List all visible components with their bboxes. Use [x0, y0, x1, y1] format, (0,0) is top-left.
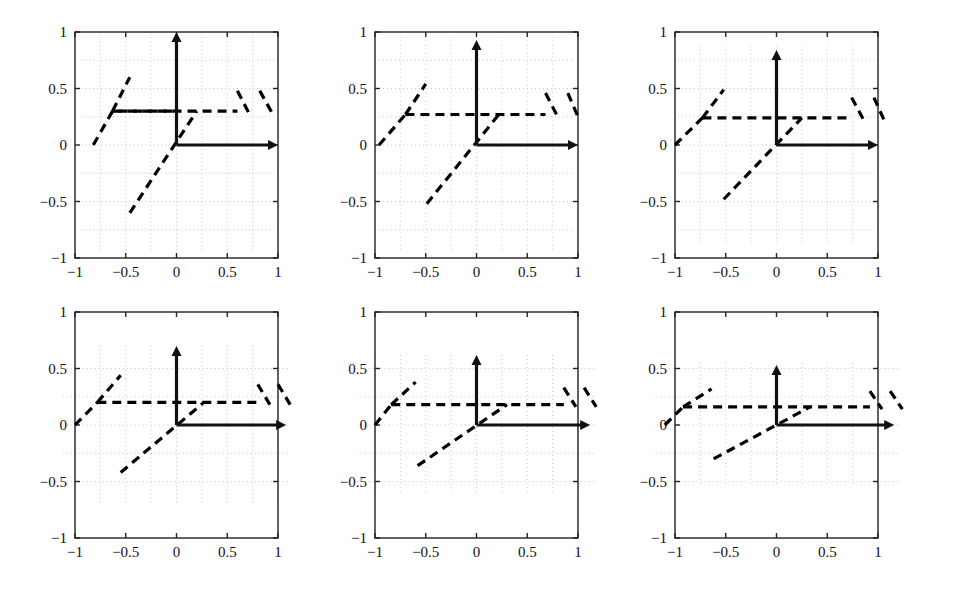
y-tick-label: 1 [660, 304, 668, 320]
curve-ramp-left [665, 407, 683, 425]
vertical-arrow-head-icon [772, 50, 782, 60]
vertical-arrow-head-icon [172, 32, 182, 42]
plot-panel-5: −1−0.500.51−1−0.500.51 [320, 290, 620, 580]
grid-lines [324, 290, 620, 580]
curve-falling-2 [568, 93, 578, 117]
horizontal-arrow-head-icon [580, 420, 590, 430]
curve-falling-1 [870, 391, 882, 409]
y-tick-label: −0.5 [40, 194, 67, 210]
y-tick-label: −1 [51, 250, 67, 266]
x-tick-label: −0.5 [112, 264, 139, 280]
curve-falling-1 [546, 93, 558, 117]
x-tick-label: 1 [874, 264, 882, 280]
y-tick-label: 0.5 [348, 361, 367, 377]
curve-ramp-left [75, 402, 97, 425]
y-tick-label: 0.5 [348, 81, 367, 97]
y-tick-label: 0.5 [48, 81, 67, 97]
y-tick-label: −1 [651, 250, 667, 266]
vertical-arrow-head-icon [472, 355, 482, 365]
x-tick-label: −0.5 [112, 544, 139, 560]
horizontal-arrow-head-icon [276, 420, 286, 430]
y-tick-label: 1 [360, 24, 368, 40]
x-tick-label: −1 [667, 264, 683, 280]
plot-panel-4: −1−0.500.51−1−0.500.51 [20, 290, 320, 580]
grid-lines [624, 10, 920, 300]
curve-ramp-center [121, 402, 204, 472]
origin-axes-arrows [472, 40, 579, 150]
y-tick-label: −0.5 [640, 194, 667, 210]
y-tick-label: −1 [51, 530, 67, 546]
curve-ramp-left-rise [702, 90, 723, 118]
x-tick-label: 0 [173, 264, 181, 280]
y-tick-label: 0 [60, 417, 68, 433]
curve-ramp-center [427, 114, 499, 203]
x-tick-label: 0.5 [218, 264, 237, 280]
x-tick-label: −1 [67, 544, 83, 560]
curve-ramp-center [418, 405, 507, 466]
y-tick-label: 0 [360, 417, 368, 433]
horizontal-arrow-head-icon [868, 140, 878, 150]
plot-panel-3: −1−0.500.51−1−0.500.51 [620, 10, 920, 300]
curve-ramp-center [724, 118, 802, 199]
x-tick-label: 0.5 [518, 544, 537, 560]
x-tick-label: 1 [274, 544, 282, 560]
origin-axes-arrows [172, 346, 287, 430]
curve-ramp-left-rise [391, 382, 415, 405]
curve-ramp-center [714, 407, 810, 459]
x-tick-label: −1 [667, 544, 683, 560]
y-tick-label: 1 [60, 304, 68, 320]
y-tick-label: −0.5 [340, 194, 367, 210]
plot-panel-1: −1−0.500.51−1−0.500.51 [20, 10, 320, 300]
grid-lines [324, 10, 620, 300]
y-tick-label: −0.5 [40, 474, 67, 490]
y-tick-label: −1 [651, 530, 667, 546]
curve-ramp-left-rise [97, 375, 120, 402]
x-tick-label: 1 [574, 544, 582, 560]
x-tick-label: 0.5 [218, 544, 237, 560]
y-tick-label: −1 [351, 530, 367, 546]
vertical-arrow-head-icon [472, 40, 482, 50]
curve-falling-2 [260, 91, 273, 115]
curve-ramp-left-rise [683, 389, 711, 407]
origin-axes-arrows [472, 355, 591, 430]
figure-canvas: −1−0.500.51−1−0.500.51−1−0.500.51−1−0.50… [0, 0, 975, 601]
x-tick-label: −1 [67, 264, 83, 280]
x-tick-label: 0 [173, 544, 181, 560]
curve-falling-2 [278, 384, 290, 404]
y-tick-label: 0 [660, 137, 668, 153]
curve-falling-2 [890, 391, 902, 409]
x-tick-label: −1 [367, 264, 383, 280]
curve-falling-1 [564, 388, 576, 407]
x-tick-label: 0.5 [518, 264, 537, 280]
vertical-arrow-head-icon [172, 346, 182, 356]
y-tick-label: −0.5 [640, 474, 667, 490]
horizontal-arrow-head-icon [884, 420, 894, 430]
curve-falling-1 [852, 98, 864, 121]
plot-panel-2: −1−0.500.51−1−0.500.51 [320, 10, 620, 300]
x-tick-label: 0.5 [818, 264, 837, 280]
y-tick-label: 0 [360, 137, 368, 153]
y-tick-label: 1 [660, 24, 668, 40]
curve-falling-2 [874, 98, 884, 121]
plot-panel-6: −1−0.500.51−1−0.500.51 [620, 290, 920, 580]
x-tick-label: 1 [574, 264, 582, 280]
grid-lines [24, 10, 320, 300]
grid-lines [24, 290, 320, 580]
y-tick-label: −0.5 [340, 474, 367, 490]
origin-axes-arrows [172, 32, 279, 150]
curve-falling-1 [237, 91, 249, 115]
curve-falling-2 [584, 388, 596, 407]
x-tick-label: 0.5 [818, 544, 837, 560]
curve-ramp-left [93, 111, 176, 145]
x-tick-label: −0.5 [712, 544, 739, 560]
x-tick-label: 1 [274, 264, 282, 280]
y-tick-label: 0.5 [48, 361, 67, 377]
vertical-arrow-head-icon [772, 365, 782, 375]
curve-ramp-left [379, 114, 405, 145]
x-tick-label: −1 [367, 544, 383, 560]
curve-ramp-left [375, 405, 391, 425]
curve-ramp-left [675, 118, 702, 145]
x-tick-label: 0 [773, 264, 781, 280]
x-tick-label: 0 [473, 264, 481, 280]
y-tick-label: 0 [60, 137, 68, 153]
